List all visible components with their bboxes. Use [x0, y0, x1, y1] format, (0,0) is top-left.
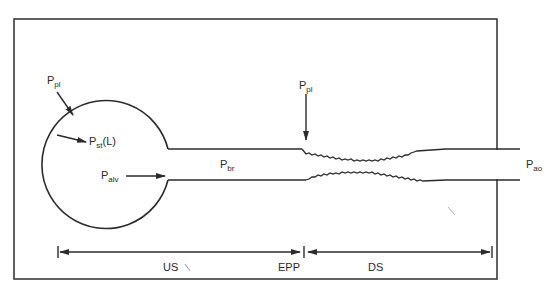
label-ds: DS	[368, 261, 383, 273]
label-ppl-left: Ppl	[47, 74, 61, 89]
alveolus-circle	[42, 101, 168, 229]
airway-diagram	[0, 0, 556, 291]
label-epp: EPP	[278, 261, 300, 273]
label-pst: Pst(L)	[89, 135, 116, 150]
collapsed-segment-lower-wall	[306, 172, 446, 181]
label-pbr: Pbr	[220, 158, 234, 173]
label-palv: Palv	[101, 169, 119, 184]
label-us: US	[163, 261, 178, 273]
collapsed-segment-upper-wall	[302, 149, 446, 161]
stray-mark	[185, 264, 190, 271]
elastic-recoil-arrow	[57, 135, 86, 142]
stray-mark	[448, 207, 455, 215]
pleural-pressure-arrow-left	[57, 92, 73, 115]
label-ppl-right: Ppl	[299, 79, 313, 94]
label-pao: Pao	[526, 158, 542, 173]
